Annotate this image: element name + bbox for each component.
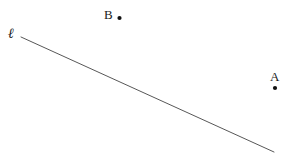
line-l[interactable] <box>21 37 274 152</box>
line-l-label: ℓ <box>8 27 14 41</box>
point-b-label: B <box>104 8 113 21</box>
point-a-label: A <box>270 70 279 83</box>
point-a-dot[interactable] <box>273 86 277 90</box>
point-b-dot[interactable] <box>117 16 121 20</box>
geometry-diagram-canvas: ℓ B A <box>0 0 297 163</box>
diagram-svg <box>0 0 297 163</box>
